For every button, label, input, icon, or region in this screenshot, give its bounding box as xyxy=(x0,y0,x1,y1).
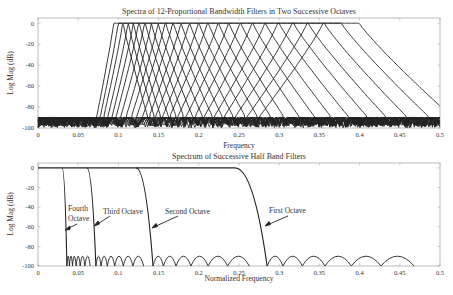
y-tick-label: 0 xyxy=(31,164,34,171)
x-tick-label: 0.1 xyxy=(114,269,122,276)
x-tick-label: 0.35 xyxy=(314,131,325,138)
x-tick-label: 0 xyxy=(36,269,39,276)
bottom-plot-title: Spectrum of Successive Half Band Filters xyxy=(172,152,306,161)
annotation-third-octave: Third Octave xyxy=(103,207,143,216)
x-tick-label: 0.15 xyxy=(153,131,164,138)
sidelobes xyxy=(67,256,90,266)
sidelobes xyxy=(267,256,414,266)
top-ylabel: Log Mag (dB) xyxy=(6,51,15,95)
bottom-xlabel: Normalized Frequency xyxy=(205,274,274,283)
x-tick-label: 0.15 xyxy=(153,269,164,276)
x-tick-label: 0.35 xyxy=(314,269,325,276)
annotation-second-octave: Second Octave xyxy=(165,207,211,216)
figure: Spectra of 12-Proportional Bandwidth Fil… xyxy=(0,0,453,295)
bottom-ylabel: Log Mag (dB) xyxy=(6,192,15,236)
x-tick-label: 0.05 xyxy=(73,269,84,276)
halfband-curve xyxy=(235,168,267,266)
x-tick-label: 0.2 xyxy=(195,269,203,276)
x-tick-label: 0.5 xyxy=(436,269,444,276)
y-tick-label: -40 xyxy=(25,203,34,210)
sidelobes xyxy=(153,256,249,266)
x-tick-label: 0.3 xyxy=(275,269,283,276)
top-plot: Spectra of 12-Proportional Bandwidth Fil… xyxy=(6,7,444,150)
x-tick-label: 0.1 xyxy=(114,131,122,138)
x-tick-label: 0.4 xyxy=(356,131,365,138)
bottom-axes-frame xyxy=(38,163,440,266)
x-tick-label: 0 xyxy=(36,131,39,138)
top-xlabel: Frequency xyxy=(223,141,255,150)
annotation-first-octave: First Octave xyxy=(269,206,307,215)
x-tick-label: 0.45 xyxy=(394,131,405,138)
top-filter-curves xyxy=(38,23,440,128)
annotation-fourth-octave-line2: Octave xyxy=(68,214,90,223)
y-tick-label: -20 xyxy=(25,184,34,191)
y-tick-label: -100 xyxy=(22,262,34,269)
annotation-fourth-octave-line1: Fourth xyxy=(68,204,88,213)
x-tick-label: 0.25 xyxy=(233,131,244,138)
halfband-curve xyxy=(62,168,67,266)
y-tick-label: -60 xyxy=(25,82,34,89)
y-tick-label: -60 xyxy=(25,223,34,230)
sidelobes xyxy=(96,256,144,266)
x-tick-label: 0.4 xyxy=(356,269,365,276)
x-tick-label: 0.2 xyxy=(195,131,203,138)
y-tick-label: 0 xyxy=(31,20,34,27)
bottom-filter-curves xyxy=(38,168,414,266)
annotation-arrows xyxy=(65,216,288,230)
x-tick-label: 0.5 xyxy=(436,131,444,138)
bottom-plot: Spectrum of Successive Half Band Filters… xyxy=(6,152,444,283)
x-tick-label: 0.05 xyxy=(73,131,84,138)
y-tick-label: -20 xyxy=(25,40,34,47)
x-tick-label: 0.45 xyxy=(394,269,405,276)
y-tick-label: -80 xyxy=(25,243,34,250)
y-tick-label: -40 xyxy=(25,61,34,68)
y-tick-label: -100 xyxy=(22,124,34,131)
halfband-curve xyxy=(136,168,153,266)
top-plot-title: Spectra of 12-Proportional Bandwidth Fil… xyxy=(122,7,356,16)
y-tick-label: -80 xyxy=(25,103,34,110)
x-tick-label: 0.3 xyxy=(275,131,283,138)
